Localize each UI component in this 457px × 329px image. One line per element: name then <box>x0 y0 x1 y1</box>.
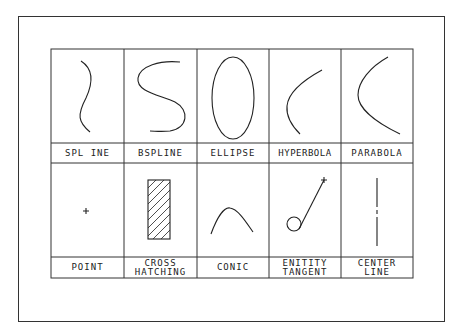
label-parabola: PARABOLA <box>341 143 413 163</box>
label-entity-tangent-line2: TANGENT <box>283 268 328 277</box>
bspline-curve-icon <box>138 62 185 132</box>
label-conic: CONIC <box>197 257 269 278</box>
label-ellipse: ELLIPSE <box>197 143 269 163</box>
hatch-lines <box>148 180 170 239</box>
ellipse-icon <box>212 57 254 139</box>
label-bspline: BSPLINE <box>124 143 197 163</box>
label-entity-tangent: ENITITY TANGENT <box>269 257 341 278</box>
label-center-line-line2: LINE <box>364 268 390 277</box>
hyperbola-curve-icon <box>287 70 322 134</box>
label-cross-hatching-line2: HATCHING <box>135 268 186 277</box>
entity-table-drawing <box>0 0 457 329</box>
label-spline: SPL INE <box>51 143 124 163</box>
tangent-endpoint-plus-icon <box>321 177 327 183</box>
point-plus-icon <box>83 208 89 214</box>
label-cross-hatching: CROSS HATCHING <box>124 257 197 278</box>
tangent-line-icon <box>299 180 324 229</box>
label-center-line: CENTER LINE <box>341 257 413 278</box>
conic-arc-icon <box>211 208 253 234</box>
parabola-curve-icon <box>358 57 400 134</box>
label-hyperbola: HYPERBOLA <box>269 143 341 163</box>
label-point: POINT <box>51 257 124 278</box>
spline-curve-icon <box>80 61 91 132</box>
